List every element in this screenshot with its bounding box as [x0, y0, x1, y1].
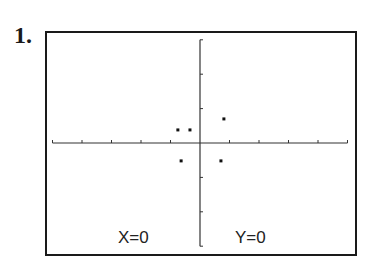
data-point [176, 128, 179, 131]
data-point [222, 117, 225, 120]
x-readout: X=0 [118, 228, 149, 248]
scatter-plot [0, 0, 373, 272]
y-readout: Y=0 [235, 228, 266, 248]
data-point [188, 128, 191, 131]
data-point [180, 159, 183, 162]
data-point [219, 159, 222, 162]
